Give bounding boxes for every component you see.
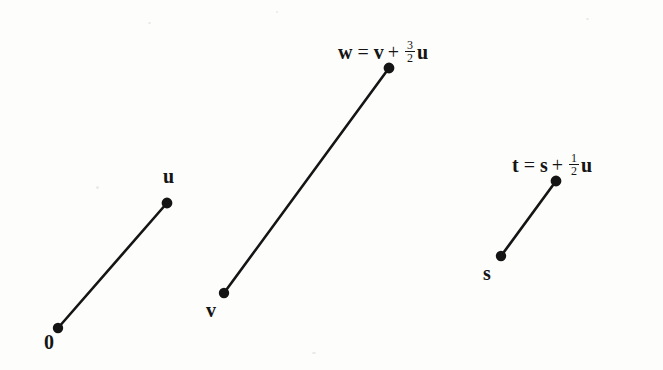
w-formula-equals: = bbox=[357, 42, 368, 62]
origin-label: 0 bbox=[44, 332, 54, 352]
u-vector-segment bbox=[58, 203, 167, 328]
u-label: u bbox=[163, 166, 174, 186]
vector-segments bbox=[0, 0, 663, 370]
t-formula-term2: u bbox=[581, 155, 592, 175]
w-vector-segment bbox=[224, 68, 389, 293]
t-formula-denominator: 2 bbox=[569, 164, 579, 177]
v-label: v bbox=[206, 300, 216, 320]
t-formula-fraction: 1 2 bbox=[569, 152, 579, 177]
0-point bbox=[54, 324, 62, 332]
t-formula: t = s + 1 2 u bbox=[512, 152, 592, 177]
v-point bbox=[220, 289, 228, 297]
w-formula-term1: v bbox=[374, 42, 384, 62]
vector-diagram: 0 u v s w = v + 3 2 u t = s + 1 2 u bbox=[0, 0, 663, 370]
w-formula-numerator: 3 bbox=[405, 39, 415, 51]
w-formula-term2: u bbox=[417, 42, 428, 62]
t-formula-term1: s bbox=[540, 155, 548, 175]
w-formula-fraction: 3 2 bbox=[405, 39, 415, 64]
w-formula: w = v + 3 2 u bbox=[338, 39, 428, 64]
t-point bbox=[552, 177, 560, 185]
w-formula-plus: + bbox=[388, 42, 399, 62]
t-formula-equals: = bbox=[524, 155, 535, 175]
t-formula-numerator: 1 bbox=[569, 152, 579, 164]
t-formula-lhs: t bbox=[512, 155, 519, 175]
u-point bbox=[163, 199, 171, 207]
s-label: s bbox=[483, 263, 491, 283]
w-point bbox=[385, 64, 393, 72]
t-vector-segment bbox=[501, 181, 556, 256]
w-formula-denominator: 2 bbox=[405, 51, 415, 64]
s-point bbox=[497, 252, 505, 260]
t-formula-plus: + bbox=[552, 155, 563, 175]
w-formula-lhs: w bbox=[338, 42, 352, 62]
